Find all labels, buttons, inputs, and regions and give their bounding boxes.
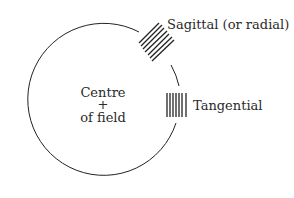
centre-label-line2: of field [80, 110, 126, 125]
tangential-pattern [167, 93, 186, 117]
field-diagram: Sagittal (or radial) Tangential Centre +… [0, 0, 294, 198]
sagittal-label: Sagittal (or radial) [167, 17, 289, 32]
tangential-label: Tangential [193, 98, 262, 113]
